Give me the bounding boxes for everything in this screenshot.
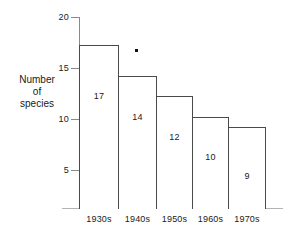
bar-value-1940s: 14 (118, 113, 157, 122)
bar-1930s[interactable] (79, 45, 119, 209)
plot-area: 20 15 10 5 Number of species 17 14 12 10… (0, 0, 293, 245)
y-tick-label-10: 10 (59, 115, 69, 124)
y-axis-title-line-3: species (4, 98, 70, 110)
bar-value-1970s: 9 (228, 172, 266, 181)
y-tick-20 (71, 17, 79, 18)
y-axis-title: Number of species (4, 74, 70, 110)
y-axis-title-line-1: Number (4, 74, 70, 86)
x-label-1950s: 1950s (156, 214, 193, 224)
y-tick-15 (71, 68, 79, 69)
x-label-1940s: 1940s (118, 214, 157, 224)
x-label-1960s: 1960s (192, 214, 229, 224)
x-label-1970s: 1970s (228, 214, 266, 224)
y-tick-5 (71, 170, 79, 171)
y-tick-10 (71, 119, 79, 120)
chart-figure: 20 15 10 5 Number of species 17 14 12 10… (0, 0, 293, 245)
y-axis-title-line-2: of (4, 86, 70, 98)
y-tick-label-5: 5 (64, 166, 69, 175)
bar-1960s[interactable] (192, 117, 229, 209)
bar-1940s[interactable] (118, 76, 157, 209)
bar-value-1960s: 10 (192, 153, 229, 162)
y-tick-label-20: 20 (59, 13, 69, 22)
stray-dot-annotation (135, 49, 138, 52)
bar-1950s[interactable] (156, 96, 193, 209)
bar-1970s[interactable] (228, 127, 266, 209)
bar-value-1950s: 12 (156, 133, 193, 142)
y-tick-label-15: 15 (59, 64, 69, 73)
x-label-1930s: 1930s (79, 214, 119, 224)
bar-value-1930s: 17 (79, 92, 119, 101)
